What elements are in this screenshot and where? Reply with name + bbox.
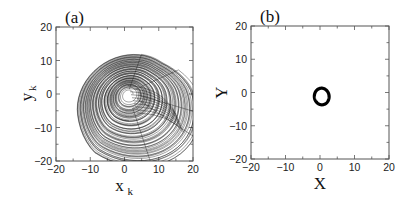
- y-tick-label: 0: [241, 87, 247, 99]
- y-tick-label: 20: [235, 20, 247, 32]
- plot-area: [314, 88, 329, 105]
- y-axis-label-group: Y: [212, 86, 231, 98]
- y-tick-label: −20: [229, 153, 247, 165]
- panel-b: −20−1001020−20−1001020(b)XY: [212, 7, 395, 193]
- y-axis-label-subscript: k: [26, 85, 38, 91]
- y-tick-label: −10: [229, 120, 247, 132]
- y-tick-label: 0: [46, 88, 52, 100]
- panel-a: −20−1001020−20−1001020(a)xkyk: [17, 8, 200, 197]
- x-tick-label: 0: [317, 161, 323, 173]
- y-tick-label: 10: [40, 55, 52, 67]
- y-axis-label-group: yk: [17, 85, 38, 101]
- panel-label: (b): [260, 7, 280, 26]
- x-tick-label: 0: [122, 163, 128, 175]
- x-axis-label-subscript: k: [128, 185, 134, 197]
- plot-frame: [251, 26, 389, 159]
- x-tick-label: 10: [349, 161, 361, 173]
- y-tick-label: −20: [34, 155, 52, 167]
- x-axis-label: X: [314, 174, 326, 193]
- y-tick-label: 20: [40, 21, 52, 33]
- y-tick-label: 10: [235, 53, 247, 65]
- x-axis-label: x: [115, 176, 124, 195]
- x-tick-label: −10: [277, 161, 295, 173]
- x-tick-label: 20: [383, 161, 395, 173]
- panel-label: (a): [65, 8, 84, 27]
- attractor-trajectory: [77, 54, 200, 166]
- plot-area: [77, 54, 200, 166]
- y-tick-label: −10: [34, 122, 52, 134]
- y-axis-label: Y: [212, 86, 231, 98]
- x-tick-label: −10: [81, 163, 99, 175]
- limit-cycle-loop: [314, 88, 329, 105]
- figure: −20−1001020−20−1001020(a)xkyk −20−100102…: [0, 0, 411, 199]
- y-axis-label: y: [17, 92, 36, 101]
- x-tick-label: 10: [153, 163, 165, 175]
- x-tick-label: 20: [187, 163, 199, 175]
